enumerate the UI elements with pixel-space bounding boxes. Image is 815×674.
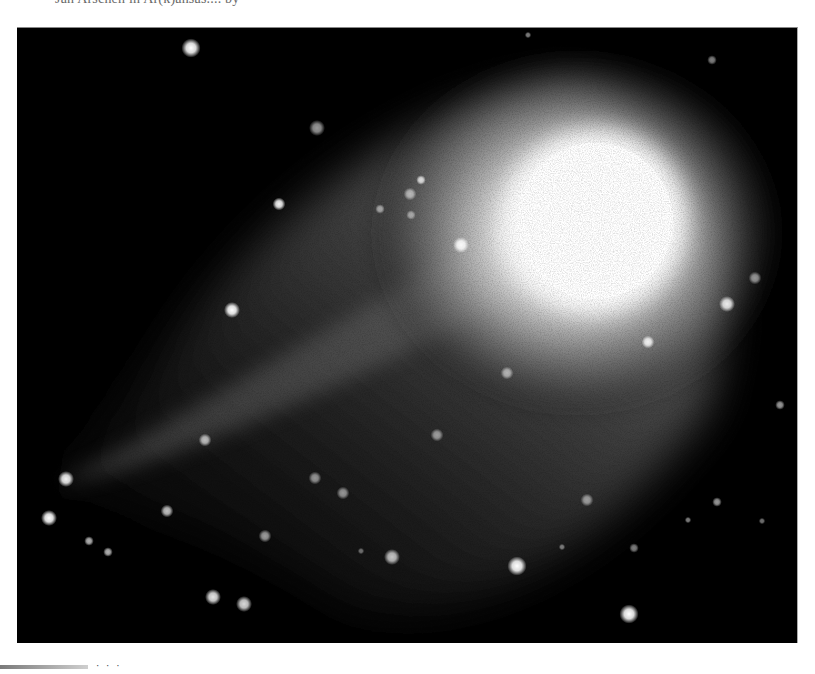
star — [224, 302, 240, 318]
star — [84, 536, 94, 546]
star — [642, 336, 655, 349]
star — [384, 549, 400, 565]
star — [525, 32, 531, 38]
star — [749, 272, 762, 285]
star — [404, 188, 417, 201]
star — [41, 510, 57, 526]
star — [337, 487, 350, 500]
star — [431, 429, 444, 442]
star — [507, 556, 526, 575]
star — [358, 548, 364, 554]
star — [559, 544, 565, 550]
star — [775, 400, 785, 410]
star — [236, 596, 252, 612]
star — [58, 471, 74, 487]
star — [453, 237, 469, 253]
star — [707, 55, 717, 65]
star — [161, 505, 174, 518]
star — [375, 204, 385, 214]
star — [685, 517, 691, 523]
star — [181, 38, 200, 57]
star — [712, 497, 722, 507]
star — [581, 494, 594, 507]
star — [619, 604, 638, 623]
star — [309, 120, 325, 136]
star — [309, 472, 322, 485]
comet-image — [17, 28, 798, 643]
page-caption: Jan Arschen in Ar(k)ansas.... by — [55, 0, 239, 7]
footer-mark: · · · — [96, 660, 122, 671]
star — [273, 198, 286, 211]
star — [501, 367, 514, 380]
star — [629, 543, 639, 553]
star — [103, 547, 113, 557]
star — [719, 296, 735, 312]
star — [416, 175, 426, 185]
star — [259, 530, 272, 543]
star — [759, 518, 765, 524]
footer-rule — [0, 665, 88, 669]
star — [406, 210, 416, 220]
star — [205, 589, 221, 605]
star — [199, 434, 212, 447]
comet-photo — [17, 27, 798, 643]
